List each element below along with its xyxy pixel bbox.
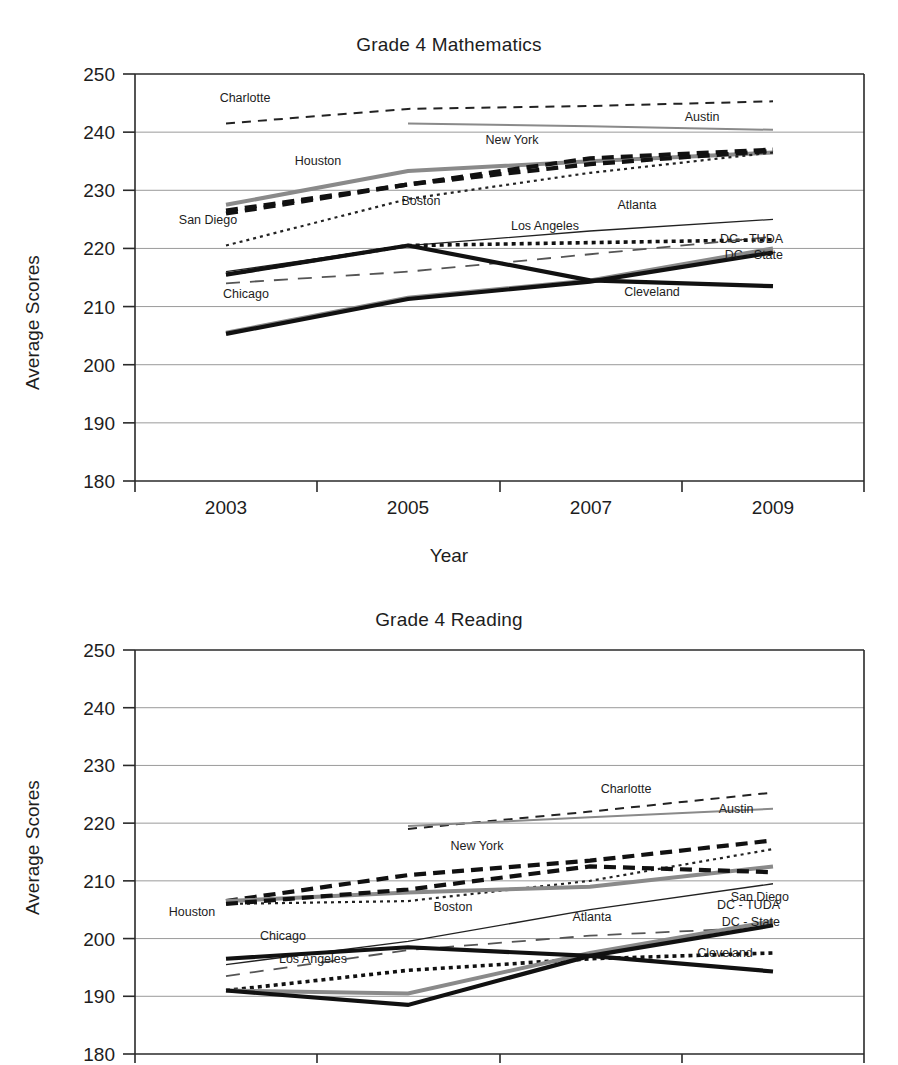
y-tick-label: 250 (83, 643, 115, 661)
y-tick-label: 230 (83, 755, 115, 776)
chart-grade4-mathematics: Grade 4 Mathematics Average Scores Year … (0, 0, 898, 585)
series-annotation-label: DC - TUDA (720, 232, 784, 246)
plot-svg-mathematics: 1801902002102202302402502003200520072009… (0, 56, 898, 566)
y-tick-label: 200 (83, 929, 115, 950)
y-tick-label: 250 (83, 64, 115, 85)
y-tick-label: 220 (83, 238, 115, 259)
series-annotation-label: DC - State (722, 915, 780, 929)
y-tick-label: 190 (83, 413, 115, 434)
series-annotation-label: New York (486, 133, 540, 147)
series-annotation-label: Austin (719, 802, 754, 816)
y-tick-label: 190 (83, 986, 115, 1007)
y-tick-label: 210 (83, 871, 115, 892)
series-annotation-label: DC - TUDA (717, 898, 781, 912)
chart-title-reading: Grade 4 Reading (0, 585, 898, 631)
x-tick-label: 2003 (205, 497, 247, 518)
series-annotation-label: Cleveland (697, 946, 753, 960)
series-line (226, 866, 773, 904)
y-tick-label: 240 (83, 698, 115, 719)
series-annotation-label: DC - State (725, 248, 783, 262)
series-annotation-label: Atlanta (618, 198, 657, 212)
x-tick-label: 2009 (752, 497, 794, 518)
series-annotation-label: San Diego (179, 213, 237, 227)
series-annotation-label: Charlotte (601, 782, 652, 796)
series-annotation-label: Charlotte (220, 91, 271, 105)
y-tick-label: 240 (83, 122, 115, 143)
series-annotation-label: Austin (685, 110, 720, 124)
y-tick-label: 200 (83, 355, 115, 376)
series-annotation-label: Atlanta (573, 910, 612, 924)
series-annotation-label: Cleveland (624, 285, 680, 299)
series-annotation-label: Houston (169, 905, 216, 919)
series-annotation-label: Boston (402, 194, 441, 208)
series-annotation-label: Los Angeles (511, 219, 579, 233)
chart-title-mathematics: Grade 4 Mathematics (0, 0, 898, 56)
y-tick-label: 220 (83, 813, 115, 834)
series-annotation-label: Chicago (223, 287, 269, 301)
series-annotation-label: New York (451, 839, 505, 853)
series-annotation-label: Los Angeles (279, 952, 347, 966)
series-annotation-label: Chicago (260, 929, 306, 943)
y-tick-label: 210 (83, 297, 115, 318)
chart-grade4-reading: Grade 4 Reading Average Scores 180190200… (0, 585, 898, 1065)
plot-area-mathematics: 1801902002102202302402502003200520072009… (0, 56, 898, 566)
x-tick-label: 2007 (570, 497, 612, 518)
y-tick-label: 180 (83, 471, 115, 492)
plot-area-reading: 180190200210220230240250CharlotteAustinN… (0, 643, 898, 1063)
y-tick-label: 180 (83, 1044, 115, 1063)
series-annotation-label: Boston (434, 900, 473, 914)
series-line (408, 123, 773, 129)
plot-svg-reading: 180190200210220230240250CharlotteAustinN… (0, 643, 898, 1063)
x-tick-label: 2005 (387, 497, 429, 518)
series-annotation-label: Houston (295, 154, 342, 168)
y-tick-label: 230 (83, 180, 115, 201)
